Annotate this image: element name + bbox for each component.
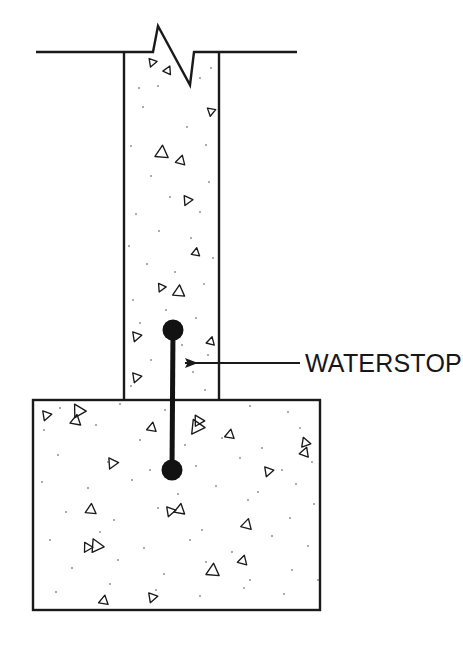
stipple-dot — [243, 587, 245, 589]
stipple-dot — [95, 424, 97, 426]
stipple-dot — [208, 181, 210, 183]
stipple-dot — [139, 439, 141, 441]
stipple-dot — [307, 545, 309, 547]
stipple-dot — [142, 106, 144, 108]
stipple-dot — [231, 551, 233, 553]
stipple-dot — [55, 591, 57, 593]
stipple-dot — [158, 230, 160, 232]
stipple-dot — [249, 579, 251, 581]
stipple-dot — [131, 479, 133, 481]
stipple-dot — [146, 263, 148, 265]
stipple-dot — [174, 271, 176, 273]
stipple-dot — [143, 547, 145, 549]
stipple-dot — [164, 409, 166, 411]
stipple-dot — [150, 175, 152, 177]
stipple-dot — [41, 481, 43, 483]
stipple-dot — [192, 371, 194, 373]
stipple-dot — [199, 77, 201, 79]
stipple-dot — [199, 211, 201, 213]
stipple-dot — [139, 322, 141, 324]
stipple-dot — [165, 309, 167, 311]
stipple-dot — [204, 389, 206, 391]
stipple-dot — [65, 511, 67, 513]
stipple-dot — [150, 359, 152, 361]
stipple-dot — [205, 144, 207, 146]
stipple-dot — [155, 589, 157, 591]
stipple-dot — [195, 317, 197, 319]
waterstop-top-bulb — [163, 320, 184, 341]
stipple-dot — [119, 403, 121, 405]
stipple-dot — [221, 437, 223, 439]
detail-svg-canvas: WATERSTOP — [0, 0, 463, 648]
waterstop-detail-drawing: WATERSTOP — [0, 0, 463, 648]
stipple-dot — [49, 539, 51, 541]
stipple-dot — [207, 354, 209, 356]
stipple-dot — [247, 499, 249, 501]
stipple-dot — [271, 535, 273, 537]
stipple-dot — [295, 483, 297, 485]
stipple-dot — [149, 469, 151, 471]
stipple-dot — [128, 245, 130, 247]
stipple-dot — [57, 454, 59, 456]
stipple-dot — [130, 385, 132, 387]
stipple-dot — [317, 579, 319, 581]
stipple-dot — [212, 257, 214, 259]
stipple-dot — [205, 561, 207, 563]
waterstop-stem — [172, 330, 173, 470]
stipple-dot — [59, 407, 61, 409]
stipple-dot — [181, 344, 183, 346]
stipple-dot — [190, 237, 192, 239]
stipple-dot — [189, 539, 191, 541]
stipple-dot — [184, 444, 186, 446]
stipple-dot — [291, 569, 293, 571]
stipple-dot — [87, 487, 89, 489]
stipple-dot — [283, 593, 285, 595]
stipple-dot — [311, 461, 313, 463]
stipple-dot — [117, 559, 119, 561]
stipple-dot — [177, 493, 179, 495]
stipple-dot — [195, 465, 197, 467]
stipple-dot — [99, 531, 101, 533]
stipple-dot — [199, 595, 201, 597]
stipple-dot — [71, 567, 73, 569]
footing-fill — [33, 400, 320, 610]
stipple-dot — [138, 87, 140, 89]
annotation-group: WATERSTOP — [185, 349, 462, 377]
stipple-dot — [157, 85, 159, 87]
stipple-dot — [257, 491, 259, 493]
stipple-dot — [261, 447, 263, 449]
stipple-dot — [289, 517, 291, 519]
waterstop-label: WATERSTOP — [305, 349, 462, 377]
stipple-dot — [157, 507, 159, 509]
stipple-dot — [203, 283, 205, 285]
stipple-dot — [210, 67, 212, 69]
stipple-dot — [239, 457, 241, 459]
stipple-dot — [281, 469, 283, 471]
stipple-dot — [163, 573, 165, 575]
stipple-dot — [186, 126, 188, 128]
stipple-dot — [249, 405, 251, 407]
stipple-dot — [109, 583, 111, 585]
stipple-dot — [201, 529, 203, 531]
stipple-dot — [135, 213, 137, 215]
stipple-dot — [215, 485, 217, 487]
stipple-dot — [287, 411, 289, 413]
stipple-dot — [113, 519, 115, 521]
stipple-dot — [43, 429, 45, 431]
stipple-dot — [169, 196, 171, 198]
stipple-dot — [132, 299, 134, 301]
stipple-dot — [299, 427, 301, 429]
stipple-dot — [130, 145, 132, 147]
waterstop-bottom-bulb — [162, 460, 183, 481]
stipple-dot — [313, 503, 315, 505]
